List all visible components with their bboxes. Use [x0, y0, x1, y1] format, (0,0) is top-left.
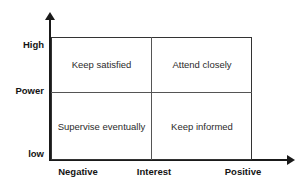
quadrant-label: Keep satisfied [72, 59, 132, 70]
up-arrow-icon [45, 12, 55, 20]
x-axis-label-negative: Negative [38, 166, 118, 177]
quadrant-supervise-eventually: Supervise eventually [52, 93, 151, 160]
x-axis-label-interest: Interest [118, 166, 190, 177]
y-axis-label-low: low [0, 148, 44, 159]
y-axis-label-power: Power [0, 85, 44, 96]
right-arrow-icon [287, 155, 295, 165]
quadrant-label: Keep informed [171, 121, 233, 132]
quadrant-keep-informed: Keep informed [152, 93, 252, 160]
y-axis-label-high: High [0, 39, 44, 50]
quadrant-attend-closely: Attend closely [152, 38, 252, 92]
quadrant-label: Supervise eventually [58, 121, 146, 132]
quadrant-keep-satisfied: Keep satisfied [52, 38, 151, 92]
stakeholder-matrix-diagram: Keep satisfied Attend closely Supervise … [0, 0, 305, 185]
quadrant-label: Attend closely [172, 59, 231, 70]
x-axis-label-positive: Positive [203, 166, 283, 177]
